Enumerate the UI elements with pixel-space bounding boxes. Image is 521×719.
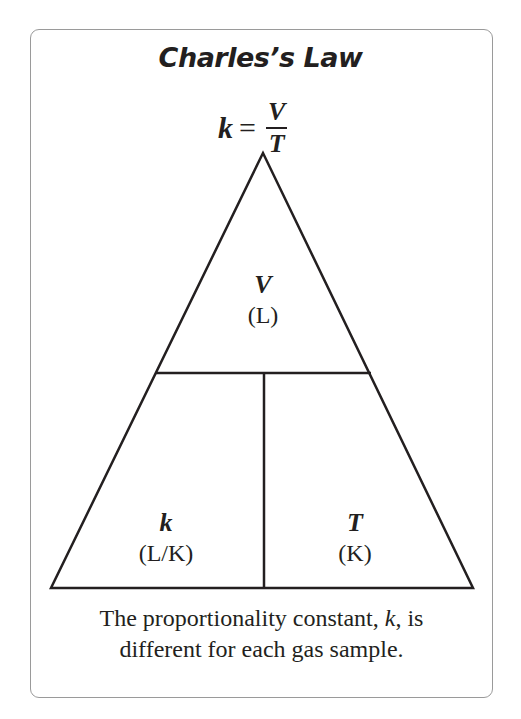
constant-unit: (L/K) [106, 538, 226, 568]
constant-symbol: k [106, 508, 226, 538]
triangle-top-cell: V (L) [203, 270, 323, 330]
triangle-bottom-left-cell: k (L/K) [106, 508, 226, 568]
volume-symbol: V [203, 270, 323, 300]
triangle-bottom-right-cell: T (K) [295, 508, 415, 568]
caption-text: , is [395, 605, 423, 631]
caption-line-2: different for each gas sample. [30, 634, 493, 665]
caption-text: The proportionality constant, [100, 605, 385, 631]
temperature-unit: (K) [295, 538, 415, 568]
volume-unit: (L) [203, 300, 323, 330]
caption-line-1: The proportionality constant, k, is [30, 603, 493, 634]
temperature-symbol: T [295, 508, 415, 538]
caption-variable: k [385, 605, 396, 631]
caption: The proportionality constant, k, is diff… [30, 603, 493, 665]
